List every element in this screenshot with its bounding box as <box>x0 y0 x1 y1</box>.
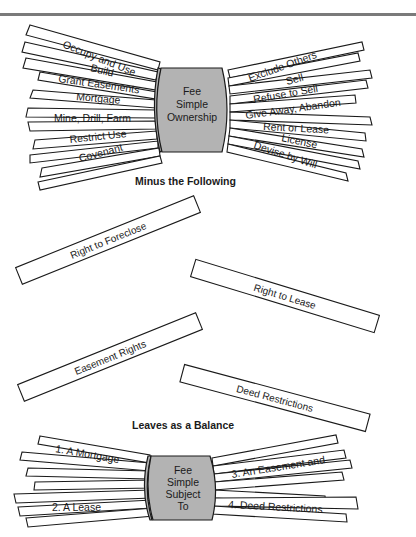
removed-right-lease: Right to Lease <box>191 259 380 332</box>
right-mine-drill-farm: Mine, Drill, Farm <box>54 112 131 124</box>
band2-label-line4: To <box>177 500 188 512</box>
band-label-line3: Ownership <box>167 111 217 123</box>
band2-label-line2: Simple <box>167 476 199 488</box>
band-label-line2: Simple <box>176 98 208 110</box>
balance-item-lease: 2. A Lease <box>52 501 101 513</box>
fee-simple-subject-to-band: Fee Simple Subject To <box>144 456 215 520</box>
balance-heading: Leaves as a Balance <box>132 419 234 431</box>
minus-heading: Minus the Following <box>135 175 236 187</box>
band2-label-line1: Fee <box>174 464 192 476</box>
bundle-of-rights-diagram: Occupy and Use Build Grant Easements Mor… <box>0 0 416 537</box>
right-mortgage: Mortgage <box>76 90 121 106</box>
removed-right-easement: Easement Rights <box>18 313 203 402</box>
removed-right-foreclose: Right to Foreclose <box>16 196 201 285</box>
svg-text:Right to Foreclose: Right to Foreclose <box>69 220 149 261</box>
band-label-line1: Fee <box>183 85 201 97</box>
fee-simple-ownership-band: Fee Simple Ownership <box>154 68 227 152</box>
band2-label-line3: Subject <box>165 488 200 500</box>
